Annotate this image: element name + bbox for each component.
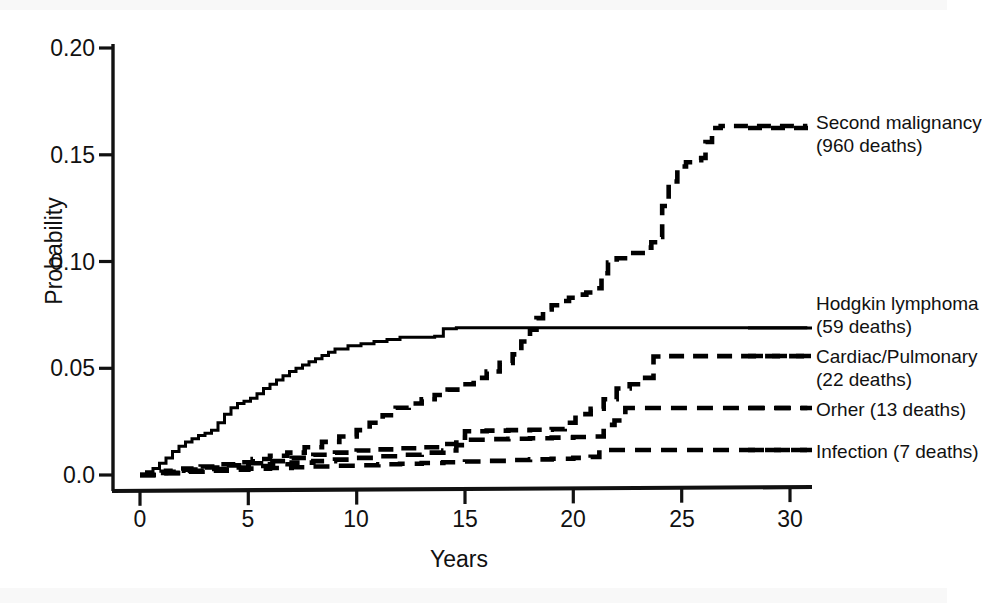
xtick-label-3: 15 [440,506,490,532]
legend-entry-cardiac-pulmonary: Cardiac/Pulmonary (22 deaths) [816,345,978,391]
legend-label-hodgkin-lymphoma: Hodgkin lymphoma [816,293,979,314]
series-line-cardiac-pulmonary [140,356,807,475]
xtick-label-5: 25 [657,506,707,532]
legend-entry-infection: Infection (7 deaths) [816,440,979,463]
legend-line-samples [748,128,812,450]
xtick-label-2: 10 [331,506,381,532]
xtick-label-1: 5 [223,506,273,532]
ytick-label-3: 0.05 [10,355,95,381]
legend-label-second-malignancy: Second malignancy [816,112,982,133]
series-line-infection [140,450,807,475]
xtick-label-0: 0 [115,506,165,532]
legend-label-cardiac-pulmonary: Cardiac/Pulmonary [816,346,978,367]
legend-entry-other: Orher (13 deaths) [816,398,966,421]
legend-label-infection: Infection (7 deaths) [816,441,979,462]
y-axis-title: Probability [41,151,68,351]
legend-sublabel-hodgkin-lymphoma: (59 deaths) [816,315,979,338]
legend-entry-second-malignancy: Second malignancy (960 deaths) [816,111,982,157]
legend-sublabel-cardiac-pulmonary: (22 deaths) [816,368,978,391]
legend-sublabel-second-malignancy: (960 deaths) [816,134,982,157]
legend-entry-hodgkin-lymphoma: Hodgkin lymphoma (59 deaths) [816,292,979,338]
series-line-second-malignancy [140,126,807,475]
xtick-label-4: 20 [548,506,598,532]
y-axis-title-wrapper: Probability [41,151,71,351]
legend-label-other: Orher (13 deaths) [816,399,966,420]
x-axis-spine [112,487,812,491]
ytick-label-4: 0.0 [10,462,95,488]
xtick-label-6: 30 [765,506,815,532]
x-axis-title: Years [430,546,488,573]
series-line-hodgkin-lymphoma [140,328,807,475]
ytick-label-0: 0.20 [10,35,95,61]
data-series-layer [140,126,807,475]
